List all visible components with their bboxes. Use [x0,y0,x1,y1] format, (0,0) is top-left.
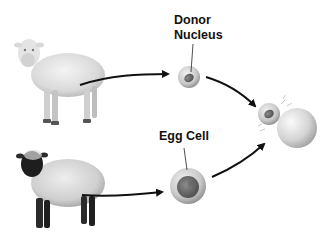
arrow-egg-cell-to-fused-cell [212,144,264,177]
fused-cell [258,95,317,148]
donor-nucleus-label-line1: Donor [174,13,223,28]
black-faced-sheep [16,150,105,228]
arrow-donor-nucleus-to-fused-cell [206,77,255,106]
donor-nucleus-label: Donor Nucleus [174,13,223,43]
cloning-diagram [0,0,323,244]
donor-nucleus-label-line2: Nucleus [174,28,223,43]
donor-nucleus-cell [178,44,200,88]
egg-cell-label: Egg Cell [159,129,209,144]
egg-cell [170,148,206,204]
